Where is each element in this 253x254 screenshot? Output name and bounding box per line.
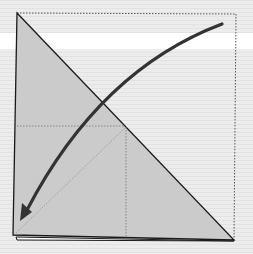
fold-diagram-svg <box>0 0 253 254</box>
origami-diagram <box>0 0 253 254</box>
